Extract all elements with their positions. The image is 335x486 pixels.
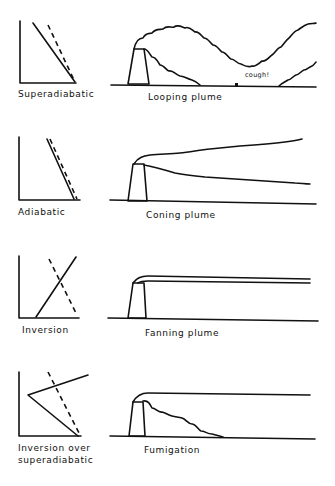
fumigation-scene — [110, 393, 315, 439]
label-fumigation: Fumigation — [144, 445, 200, 456]
label-adiabatic: Adiabatic — [18, 207, 65, 218]
looping-plume-scene — [111, 23, 316, 87]
label-superadiabatic: Superadiabatic — [18, 89, 94, 100]
label-inversion-over: Inversion over — [18, 443, 91, 454]
coning-plume-scene — [110, 139, 316, 204]
label-coning-plume: Coning plume — [146, 210, 216, 221]
fanning-plume-scene — [108, 276, 318, 321]
smokestack — [128, 49, 149, 84]
label-inversion: Inversion — [22, 325, 69, 336]
lapse-graph-inversion-over-superadiabatic — [19, 372, 88, 436]
lapse-graph-inversion — [19, 256, 79, 318]
lapse-graph-adiabatic — [19, 137, 80, 200]
smokestack — [128, 283, 146, 318]
smokestack — [129, 402, 145, 436]
label-looping-plume: Looping plume — [148, 92, 222, 103]
diagram-canvas — [0, 0, 335, 486]
smokestack — [128, 164, 147, 201]
annotation-cough: cough! — [245, 70, 269, 81]
lapse-graph-superadiabatic — [20, 21, 76, 83]
label-fanning-plume: Fanning plume — [145, 328, 219, 339]
person-marker — [235, 83, 238, 86]
label-superadiabatic-2: superadiabatic — [18, 455, 93, 466]
